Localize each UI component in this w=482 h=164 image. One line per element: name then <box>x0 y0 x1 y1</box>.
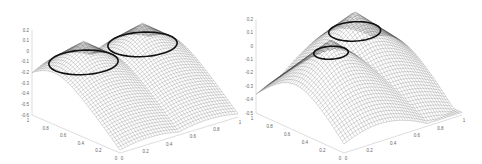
x-tick-label: 0 <box>121 156 124 161</box>
x-tick-label: 1 <box>463 118 466 123</box>
y-tick-label: 0 <box>115 156 118 161</box>
y-tick-label: 0.4 <box>302 140 309 145</box>
z-tick-label: -0.1 <box>21 59 29 64</box>
y-tick-label: 0.8 <box>266 124 273 129</box>
z-tick-label: -0.4 <box>245 97 253 102</box>
z-tick-label: 0.1 <box>23 38 30 43</box>
y-tick-label: 0.6 <box>60 133 67 138</box>
z-tick-label: -0.5 <box>245 111 253 116</box>
x-tick-label: 0.2 <box>142 149 149 154</box>
z-tick-label: 0.2 <box>23 28 30 33</box>
z-tick-label: -0.4 <box>21 91 29 96</box>
surface-plot-right: 0.20.10-0.1-0.2-0.3-0.4-0.500.20.40.60.8… <box>241 0 482 164</box>
x-tick-label: 0.4 <box>166 142 173 147</box>
y-tick-label: 0.8 <box>42 126 49 131</box>
x-tick-label: 0.6 <box>190 134 197 139</box>
z-tick-label: 0 <box>250 44 253 49</box>
z-tick-label: -0.6 <box>21 113 29 118</box>
surface-mesh <box>256 12 462 144</box>
x-tick-label: 0.4 <box>390 141 397 146</box>
y-tick-label: 0 <box>339 156 342 161</box>
surface-plot-left-svg: 0.20.10-0.1-0.2-0.3-0.4-0.5-0.600.20.40.… <box>0 0 241 164</box>
z-tick-label: -0.5 <box>21 102 29 107</box>
surface-plot-left: 0.20.10-0.1-0.2-0.3-0.4-0.5-0.600.20.40.… <box>0 0 241 164</box>
z-tick-label: 0.1 <box>247 30 254 35</box>
y-tick-label: 1 <box>27 118 30 123</box>
z-tick-label: -0.2 <box>245 70 253 75</box>
z-tick-label: -0.3 <box>21 81 29 86</box>
z-tick-label: 0 <box>26 49 29 54</box>
surface-plot-right-svg: 0.20.10-0.1-0.2-0.3-0.4-0.500.20.40.60.8… <box>241 0 482 164</box>
y-tick-label: 1 <box>251 116 254 121</box>
z-tick-label: 0.2 <box>247 17 254 22</box>
surface-mesh <box>32 23 238 150</box>
z-tick-label: -0.2 <box>21 70 29 75</box>
x-tick-label: 0.2 <box>366 148 373 153</box>
x-tick-label: 0.6 <box>414 133 421 138</box>
x-tick-label: 0.8 <box>437 126 444 131</box>
x-tick-label: 0.8 <box>213 127 220 132</box>
y-tick-label: 0.2 <box>95 148 102 153</box>
y-tick-label: 0.2 <box>319 148 326 153</box>
y-tick-label: 0.4 <box>78 141 85 146</box>
z-tick-label: -0.1 <box>245 57 253 62</box>
x-tick-label: 0 <box>345 156 348 161</box>
y-tick-label: 0.6 <box>284 132 291 137</box>
contour-ring <box>314 46 349 59</box>
z-tick-label: -0.3 <box>245 84 253 89</box>
